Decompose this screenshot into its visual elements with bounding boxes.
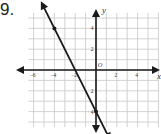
x-axis-left-arrow-icon xyxy=(16,66,24,74)
coordinate-plane: −6−4−2244224Oyx xyxy=(0,0,161,134)
y-axis-up-arrow-icon xyxy=(92,9,100,17)
y-tick-label: 4 xyxy=(91,109,94,115)
y-tick-label: 2 xyxy=(91,46,94,52)
y-axis-label: y xyxy=(101,5,106,15)
marked-point xyxy=(94,110,98,114)
marked-point xyxy=(52,26,56,30)
y-axis-down-arrow-icon xyxy=(92,125,100,133)
x-axis-label: x xyxy=(156,71,161,81)
x-tick-label: 4 xyxy=(135,72,138,78)
x-tick-label: −4 xyxy=(50,72,56,78)
x-tick-label: 2 xyxy=(114,72,117,78)
origin-label: O xyxy=(98,61,103,68)
y-tick-label: 4 xyxy=(91,25,94,31)
axes xyxy=(16,9,160,133)
x-tick-label: −6 xyxy=(30,72,36,78)
y-tick-label: 2 xyxy=(91,88,94,94)
